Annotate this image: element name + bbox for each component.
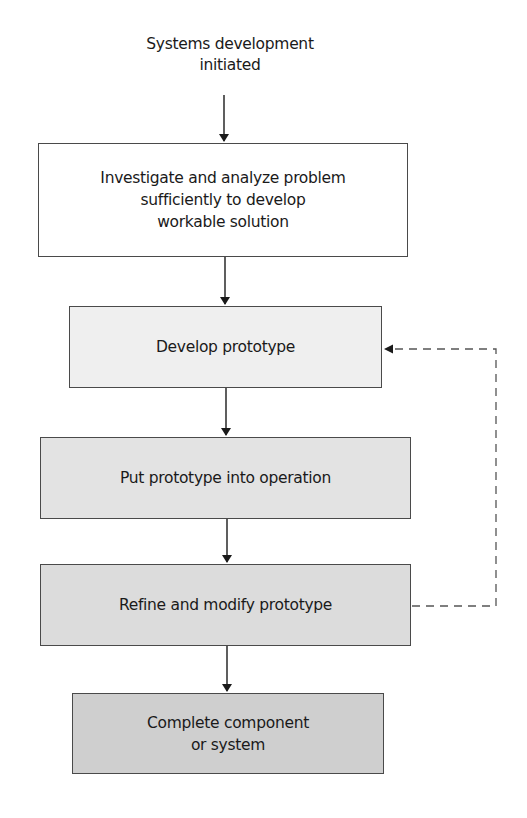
step-complete-box: Complete component or system xyxy=(72,693,384,774)
step-refine-modify-box: Refine and modify prototype xyxy=(40,564,411,646)
step-refine-modify-label: Refine and modify prototype xyxy=(119,594,332,616)
step-put-into-operation-box: Put prototype into operation xyxy=(40,437,411,519)
step-investigate-box: Investigate and analyze problem sufficie… xyxy=(38,143,408,257)
step-investigate-label: Investigate and analyze problem sufficie… xyxy=(100,167,345,233)
step-put-into-operation-label: Put prototype into operation xyxy=(120,467,331,489)
step-develop-prototype-box: Develop prototype xyxy=(69,306,382,388)
step-develop-prototype-label: Develop prototype xyxy=(156,336,295,358)
start-label: Systems development initiated xyxy=(100,34,360,76)
step-complete-label: Complete component or system xyxy=(147,712,309,756)
feedback-arrowhead-icon xyxy=(384,345,393,354)
